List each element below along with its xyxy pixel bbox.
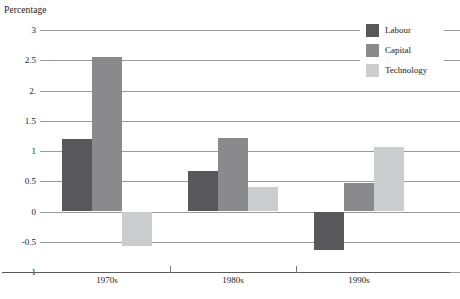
legend-label: Capital [385,45,411,55]
x-axis-tick-label: 1990s [329,275,389,285]
legend-item-capital[interactable]: Capital [366,40,450,60]
y-axis-tick-label: 1.5 [2,116,36,126]
y-axis-tick-label: 3 [2,25,36,35]
x-axis-line [2,272,450,273]
chart-legend: LabourCapitalTechnology [366,20,450,80]
bar-labour-1970s [62,139,92,212]
legend-label: Labour [385,25,411,35]
legend-swatch-capital-icon [366,44,379,57]
legend-swatch-labour-icon [366,24,379,37]
y-axis-tick-label: 2. [2,86,36,96]
gridline-stub [446,121,458,122]
y-axis-title: Percentage [4,5,47,15]
gridline-stub [446,30,458,31]
y-axis-tick-label: 2.5 [2,55,36,65]
bar-capital-1980s [218,138,248,212]
bar-capital-1970s [92,57,122,211]
y-axis-tick-label: 0.5 [2,176,36,186]
x-axis-tick-label: 1980s [203,275,263,285]
bar-technology-1980s [248,187,278,211]
legend-item-labour[interactable]: Labour [366,20,450,40]
y-axis-tick-label: -0.5 [2,237,36,247]
y-axis-tick-labels: 32.52.1.510.50-0.5-1 [0,30,36,272]
bar-labour-1990s [314,212,344,251]
y-axis-tick-label: 1 [2,146,36,156]
bar-chart: Percentage 32.52.1.510.50-0.5-1 1970s198… [0,0,460,299]
y-axis-tick-label: 0 [2,207,36,217]
bar-capital-1990s [344,183,374,211]
legend-label: Technology [385,65,427,75]
legend-swatch-technology-icon [366,64,379,77]
bar-technology-1990s [374,147,404,212]
x-axis-tick [170,266,171,273]
legend-item-technology[interactable]: Technology [366,60,450,80]
bar-technology-1970s [122,212,152,246]
bar-labour-1980s [188,171,218,212]
x-axis-tick-label: 1970s [77,275,137,285]
x-axis-tick [296,266,297,273]
